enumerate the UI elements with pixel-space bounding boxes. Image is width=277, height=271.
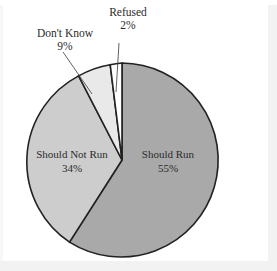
callout-label-refused-name: Refused — [109, 6, 147, 18]
slice-label-should-run-name: Should Run — [142, 148, 195, 160]
pie-chart-figure: Should Hillary Clinton Run for President… — [0, 0, 277, 271]
callout-label-dont-know-value: 9% — [57, 40, 73, 52]
slice-label-should-run-value: 55% — [158, 162, 178, 174]
slice-label-should-not-run-value: 34% — [62, 162, 82, 174]
slice-label-should-not-run-name: Should Not Run — [36, 148, 108, 160]
callout-label-dont-know-name: Don't Know — [37, 27, 94, 39]
callout-label-refused-value: 2% — [120, 19, 136, 31]
pie-chart-svg: Should Run 55% Should Not Run 34% Don't … — [0, 0, 277, 271]
